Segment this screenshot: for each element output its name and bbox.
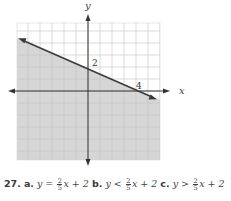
y-intercept-label: 2 xyxy=(92,58,98,68)
x-axis-left-arrow-icon xyxy=(8,89,15,94)
x-axis-right-arrow-icon xyxy=(163,89,170,94)
part-b: b. y < 25x + 2 xyxy=(92,178,160,189)
exercise-caption: 27. a. y = 25x + 2 b. y < 25x + 2 c. y >… xyxy=(4,178,225,191)
x-intercept-label: 4 xyxy=(136,81,142,91)
x-axis-label: x xyxy=(179,85,185,96)
y-axis-down-arrow-icon xyxy=(86,159,91,166)
line-right-arrow-icon xyxy=(149,94,158,99)
part-a: a. y = 25x + 2 xyxy=(24,178,92,189)
exercise-number: 27. xyxy=(4,178,21,189)
y-axis-label: y xyxy=(84,0,91,11)
inequality-graph: y x 2 4 xyxy=(0,0,231,170)
y-axis-up-arrow-icon xyxy=(86,14,91,21)
part-c: c. y > 25x + 2 xyxy=(160,178,224,189)
